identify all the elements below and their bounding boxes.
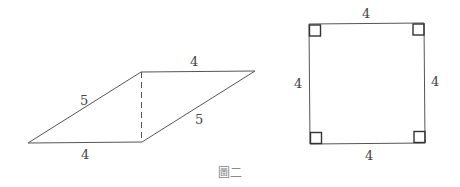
square-outline bbox=[309, 23, 425, 144]
right-angle-mark-bottom-right bbox=[414, 132, 425, 143]
parallelogram: 4 4 5 5 bbox=[28, 54, 255, 162]
square: 4 4 4 4 bbox=[294, 6, 439, 163]
square-left-label: 4 bbox=[294, 76, 302, 91]
figure-caption: 圖二 bbox=[218, 166, 242, 180]
right-angle-mark-bottom-left bbox=[311, 133, 322, 144]
right-angle-mark-top-right bbox=[413, 24, 424, 35]
square-right-label: 4 bbox=[431, 74, 439, 89]
square-bottom-label: 4 bbox=[365, 148, 373, 163]
parallelogram-top-label: 4 bbox=[190, 54, 198, 69]
parallelogram-bottom-label: 4 bbox=[81, 147, 89, 162]
geometry-diagram: 4 4 5 5 4 4 4 4 圖二 bbox=[0, 0, 460, 187]
right-angle-mark-top-left bbox=[310, 25, 321, 36]
square-top-label: 4 bbox=[362, 6, 370, 21]
parallelogram-right-label: 5 bbox=[195, 112, 203, 127]
figure-canvas: 4 4 5 5 4 4 4 4 圖二 bbox=[0, 0, 460, 187]
parallelogram-left-label: 5 bbox=[80, 93, 88, 108]
